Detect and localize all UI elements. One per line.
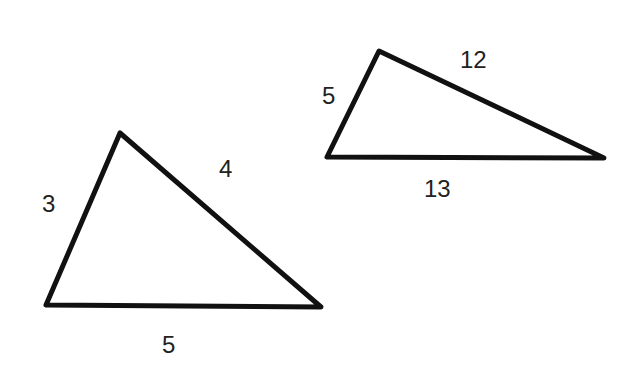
- side-label-12: 12: [460, 46, 487, 73]
- triangle-3-4-5: [46, 133, 321, 307]
- side-label-13: 13: [424, 175, 451, 202]
- triangles-diagram: 3 4 5 5 12 13: [0, 0, 641, 365]
- side-label-5-bottom: 5: [162, 331, 175, 358]
- side-label-5-left: 5: [322, 82, 335, 109]
- side-label-4: 4: [219, 155, 232, 182]
- side-label-3: 3: [42, 190, 55, 217]
